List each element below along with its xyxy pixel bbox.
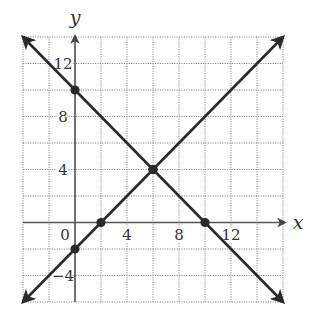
point-marker <box>70 244 79 253</box>
x-tick-label: 4 <box>122 226 132 244</box>
x-tick-label: 8 <box>174 226 184 244</box>
x-tick-label: 0 <box>60 226 70 244</box>
x-axis-title: x <box>293 211 304 233</box>
point-marker <box>148 165 157 174</box>
point-marker <box>70 85 79 94</box>
coordinate-plane: 04812−44812 xy <box>0 0 317 323</box>
y-tick-label: 8 <box>58 108 68 126</box>
y-tick-label: 4 <box>58 161 68 179</box>
point-marker <box>96 218 105 227</box>
point-marker <box>200 218 209 227</box>
y-axis-title: y <box>69 6 81 28</box>
